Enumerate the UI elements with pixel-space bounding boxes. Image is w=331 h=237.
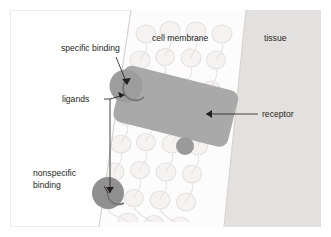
label-specific-binding: specific binding (61, 43, 120, 53)
diagram-canvas: specific binding ligands nonspecific bin… (0, 0, 331, 237)
label-receptor: receptor (262, 109, 294, 119)
receptor-binding-diagram: specific binding ligands nonspecific bin… (0, 0, 331, 237)
label-ligands: ligands (62, 94, 89, 104)
label-nonspecific-binding-line2: binding (33, 180, 61, 190)
label-cell-membrane: cell membrane (152, 33, 209, 43)
label-tissue: tissue (264, 33, 287, 43)
ligand-free (176, 137, 194, 155)
label-nonspecific-binding-line1: nonspecific (33, 168, 77, 178)
